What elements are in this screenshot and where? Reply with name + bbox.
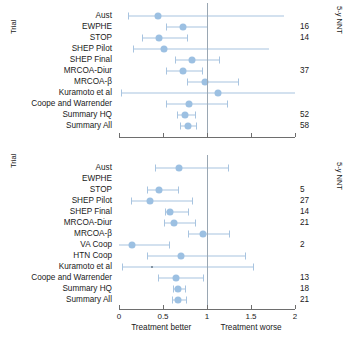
ci-upper-cap [178, 187, 179, 194]
nnt-value: 21 [300, 296, 309, 304]
effect-estimate-marker [154, 13, 161, 20]
right-axis-title-top: 5-y NNT [335, 6, 344, 34]
ci-upper-cap [187, 35, 188, 42]
plot-area-top [119, 0, 295, 159]
trial-label: Summary HQ [62, 285, 112, 293]
x-axis-tick [119, 133, 120, 137]
confidence-interval-line [131, 201, 192, 202]
null-effect-reference-line [207, 3, 208, 137]
ci-lower-cap [147, 253, 148, 260]
trial-label: Aust [96, 12, 112, 20]
trial-label: MRCOA-β [74, 78, 112, 86]
x-axis-tick [163, 305, 164, 309]
trial-label: MRCOA-Diur [64, 67, 112, 75]
forest-panel-top: Trial 5-y NNT AustEWPHESTOPSHEP PilotSHE… [0, 0, 352, 160]
x-axis-tick-label: 1 [205, 312, 209, 321]
trial-label: Summary All [66, 296, 112, 304]
trial-label: MRCOA-Diur [64, 219, 112, 227]
ci-lower-cap [177, 112, 178, 119]
ci-upper-cap [186, 297, 187, 304]
forest-plot-figure: Trial 5-y NNT AustEWPHESTOPSHEP PilotSHE… [0, 0, 352, 344]
effect-estimate-marker [129, 242, 136, 249]
ci-lower-cap [172, 297, 173, 304]
trial-label: SHEP Final [70, 208, 112, 216]
x-axis-tick [207, 133, 208, 137]
ci-lower-cap [164, 220, 165, 227]
y-axis-title-top: Trial [9, 20, 18, 34]
trial-label: Coope and Warrender [31, 274, 112, 282]
effect-estimate-marker [184, 123, 191, 130]
effect-estimate-marker [160, 46, 167, 53]
nnt-value: 2 [300, 241, 305, 249]
effect-estimate-marker [170, 220, 177, 227]
null-effect-reference-line [207, 155, 208, 309]
x-axis-tick [207, 305, 208, 309]
effect-estimate-marker [200, 231, 207, 238]
ci-lower-cap [166, 24, 167, 31]
ci-lower-cap [147, 187, 148, 194]
x-axis-tick [163, 133, 164, 137]
x-axis-line [119, 137, 295, 138]
ci-upper-cap [195, 220, 196, 227]
confidence-interval-line [155, 168, 228, 169]
ci-upper-cap [219, 57, 220, 64]
ci-upper-cap [203, 275, 204, 282]
effect-estimate-marker [155, 187, 162, 194]
trial-label: SHEP Pilot [72, 197, 112, 205]
x-axis-tick [119, 305, 120, 309]
effect-estimate-marker [180, 68, 187, 75]
effect-estimate-marker [180, 24, 187, 31]
ci-upper-cap [238, 79, 239, 86]
trial-label: Aust [96, 164, 112, 172]
ci-lower-cap [121, 90, 122, 97]
ci-lower-cap [142, 35, 143, 42]
trial-label: EWPHE [82, 23, 112, 31]
ci-upper-cap [202, 68, 203, 75]
ci-upper-cap [253, 264, 254, 271]
x-axis-tick [251, 133, 252, 137]
ci-lower-cap [131, 198, 132, 205]
nnt-value: 37 [300, 67, 309, 75]
ci-upper-cap [228, 165, 229, 172]
x-axis-line [119, 309, 295, 310]
confidence-interval-line [187, 82, 238, 83]
ci-lower-cap [188, 231, 189, 238]
nnt-value: 14 [300, 208, 309, 216]
effect-estimate-marker [174, 297, 181, 304]
trial-label: STOP [90, 186, 112, 194]
trial-label: MRCOA-β [74, 230, 112, 238]
ci-lower-cap [128, 13, 129, 20]
trial-label: Coope and Warrender [31, 100, 112, 108]
nnt-value: 16 [300, 23, 309, 31]
ci-upper-cap [188, 209, 189, 216]
ci-upper-cap [227, 101, 228, 108]
x-axis-caption-right: Treatment worse [220, 323, 281, 332]
y-axis-title-bottom: Trial [9, 154, 18, 168]
effect-estimate-marker [174, 286, 181, 293]
x-axis-tick [251, 305, 252, 309]
confidence-interval-line [142, 38, 187, 39]
plot-area-bottom: 00.511.52Treatment betterTreatment worse [119, 160, 295, 331]
effect-estimate-marker [173, 275, 180, 282]
ci-upper-cap [185, 286, 186, 293]
x-axis-tick-label: 0 [117, 312, 121, 321]
ci-upper-cap [196, 123, 197, 130]
trial-label: Summary All [66, 122, 112, 130]
ci-upper-cap [192, 198, 193, 205]
confidence-interval-line [119, 245, 169, 246]
effect-estimate-marker [215, 90, 222, 97]
confidence-interval-line [188, 234, 229, 235]
confidence-interval-line [166, 104, 228, 105]
nnt-value: 13 [300, 274, 309, 282]
confidence-interval-line [128, 16, 284, 17]
x-axis-caption-left: Treatment better [131, 323, 191, 332]
nnt-value: 52 [300, 111, 309, 119]
nnt-value: 18 [300, 285, 309, 293]
nnt-value: 14 [300, 34, 309, 42]
effect-estimate-marker [167, 209, 174, 216]
confidence-interval-line [175, 60, 219, 61]
effect-estimate-marker [177, 253, 184, 260]
nnt-value: 27 [300, 197, 309, 205]
effect-estimate-marker [151, 266, 153, 268]
x-axis-tick-label: 1.5 [245, 312, 256, 321]
